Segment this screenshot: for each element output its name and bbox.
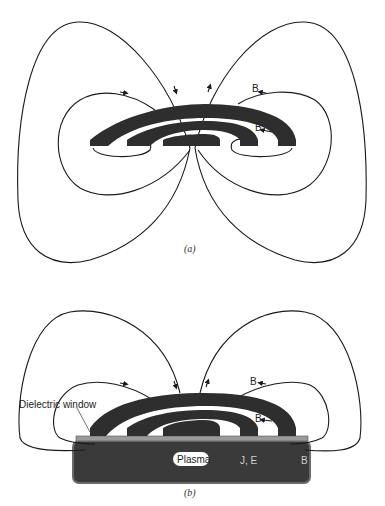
field-arrow-icon bbox=[120, 383, 126, 384]
plasma-label: Plasma bbox=[177, 454, 211, 465]
field-arrow-icon bbox=[206, 381, 208, 387]
field-arrow-icon bbox=[120, 92, 126, 93]
coil-field-diagram: B B (a) Dielectric window Plasma B B bbox=[0, 0, 385, 506]
field-arrow-icon bbox=[174, 381, 176, 387]
dielectric-window-label: Dielectric window bbox=[19, 399, 97, 410]
b-field-label: B bbox=[255, 413, 262, 424]
field-arrow-icon bbox=[260, 92, 266, 93]
dielectric-window bbox=[76, 436, 308, 441]
field-arrow-icon bbox=[260, 383, 266, 384]
field-arrow-icon bbox=[208, 86, 210, 92]
b-field-label: B bbox=[250, 376, 257, 387]
panel-b-caption: (b) bbox=[184, 487, 196, 499]
coil-turn-inner bbox=[163, 134, 220, 146]
field-arrow-icon bbox=[262, 420, 272, 421]
panel-a-caption: (a) bbox=[184, 243, 196, 255]
panel-a: B B (a) bbox=[18, 22, 367, 263]
plasma-b-field-label: B bbox=[301, 455, 308, 466]
b-field-label: B bbox=[255, 122, 262, 133]
current-field-label: J, E bbox=[240, 455, 258, 466]
panel-b: Dielectric window Plasma B B J, E B (b) bbox=[19, 311, 361, 499]
b-field-label: B bbox=[252, 83, 259, 94]
dielectric-window-pointer bbox=[77, 408, 90, 432]
field-arrow-icon bbox=[174, 86, 176, 92]
